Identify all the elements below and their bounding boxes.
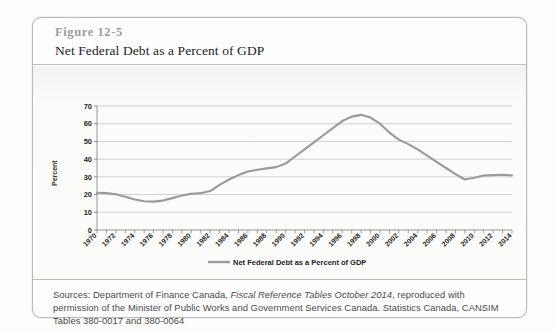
y-tick-label: 60 <box>84 119 92 128</box>
source-italic-title: Fiscal Reference Tables October 2014 <box>231 289 392 300</box>
figure-number: Figure 12-5 <box>55 24 526 40</box>
x-tick-label: 1976 <box>138 232 154 248</box>
x-tick-label: 1996 <box>327 232 343 248</box>
x-tick-label: 1986 <box>233 232 249 248</box>
x-tick-label: 2006 <box>421 232 437 248</box>
x-tick-label: 1998 <box>346 232 362 248</box>
source-prefix: Sources: Department of Finance Canada, <box>53 289 231 300</box>
figure-box: Figure 12-5 Net Federal Debt as a Percen… <box>32 17 527 318</box>
x-tick-label: 1988 <box>252 232 268 248</box>
x-tick-label: 1990 <box>270 232 286 248</box>
line-chart: 010203040506070 197019721974197619781980… <box>33 66 526 279</box>
x-tick-label: 1992 <box>289 232 305 248</box>
y-tick-label: 30 <box>84 173 92 182</box>
figure-header: Figure 12-5 Net Federal Debt as a Percen… <box>33 18 526 65</box>
x-tick-label: 1974 <box>119 232 135 248</box>
screenshot-page: Figure 12-5 Net Federal Debt as a Percen… <box>0 0 555 333</box>
y-tick-label: 40 <box>84 155 92 164</box>
chart-series <box>97 115 512 202</box>
x-tick-label: 1982 <box>195 232 211 248</box>
x-tick-label: 1980 <box>176 232 192 248</box>
x-tick-label: 2002 <box>384 232 400 248</box>
chart-gridlines <box>97 106 512 230</box>
x-tick-label: 2004 <box>402 232 418 248</box>
x-tick-label: 1984 <box>214 232 230 248</box>
y-tick-label: 10 <box>84 208 92 217</box>
chart-legend: Net Federal Debt as a Percent of GDP <box>208 258 366 267</box>
chart-y-axis-label: Percent <box>51 160 58 186</box>
x-tick-label: 1978 <box>157 232 173 248</box>
y-tick-label: 20 <box>84 190 92 199</box>
chart-y-axis: 010203040506070 <box>84 102 97 235</box>
chart-region: 010203040506070 197019721974197619781980… <box>33 66 526 279</box>
x-tick-label: 2014 <box>497 232 513 248</box>
series-line <box>97 115 512 202</box>
y-tick-label: 50 <box>84 137 92 146</box>
y-tick-label: 70 <box>84 102 92 111</box>
x-tick-label: 2008 <box>440 232 456 248</box>
x-tick-label: 2010 <box>459 232 475 248</box>
legend-label: Net Federal Debt as a Percent of GDP <box>233 258 366 267</box>
x-tick-label: 1994 <box>308 232 324 248</box>
chart-x-axis: 1970197219741976197819801982198419861988… <box>82 230 513 248</box>
x-tick-label: 1970 <box>82 232 98 248</box>
x-tick-label: 2012 <box>478 232 494 248</box>
x-tick-label: 2000 <box>365 232 381 248</box>
figure-title: Net Federal Debt as a Percent of GDP <box>55 41 526 60</box>
x-tick-label: 1972 <box>101 232 117 248</box>
source-note: Sources: Department of Finance Canada, F… <box>33 280 526 328</box>
